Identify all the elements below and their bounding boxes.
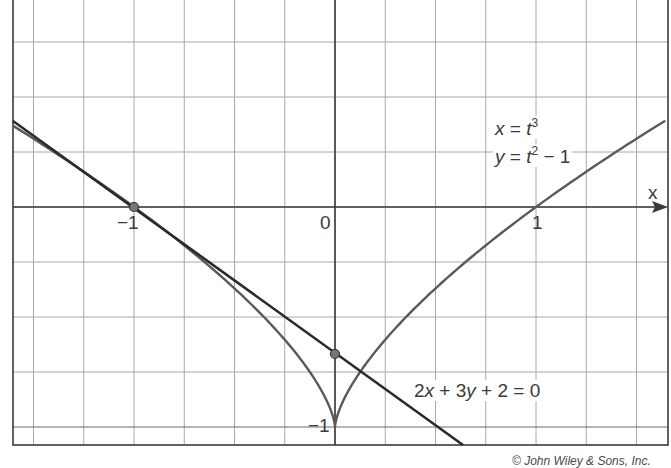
x-tick-1: 1	[532, 213, 543, 232]
x-tick-neg1: −1	[117, 213, 139, 232]
eq1-lhs: x	[495, 118, 505, 139]
y-tick-neg1: −1	[308, 416, 330, 435]
tangent-line-equation: 2x + 3y + 2 = 0	[412, 380, 542, 401]
plot-border	[13, 0, 668, 445]
line-eq-b: + 3	[434, 380, 466, 401]
curve-equation-x: x = t3	[493, 116, 540, 139]
eq2-lhs: y	[495, 146, 505, 167]
point-tangency	[130, 203, 139, 212]
eq1-mid: =	[505, 118, 527, 139]
line-eq-y: y	[466, 380, 476, 401]
eq2-mid: =	[505, 146, 527, 167]
curve-equation-y: y = t2 − 1	[493, 144, 572, 167]
grid-lines	[13, 0, 668, 445]
eq2-tail: − 1	[538, 146, 570, 167]
line-eq-a: 2	[414, 380, 425, 401]
line-eq-x: x	[425, 380, 435, 401]
point-y-intercept	[331, 350, 340, 359]
line-eq-c: + 2 = 0	[476, 380, 540, 401]
eq1-exp: 3	[531, 116, 538, 130]
x-tick-0: 0	[320, 213, 331, 232]
tangent-line	[13, 121, 463, 445]
x-axis-label: x	[648, 183, 658, 202]
copyright-notice: © John Wiley & Sons, Inc.	[512, 455, 651, 467]
